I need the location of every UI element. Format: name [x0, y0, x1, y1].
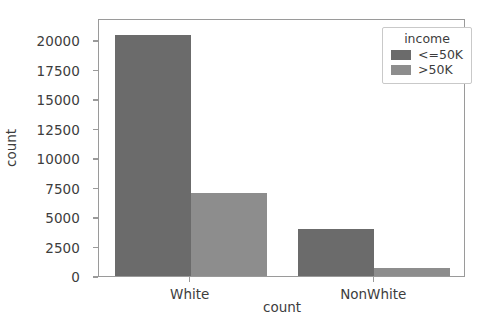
- y-tick-label: 20000: [37, 33, 80, 49]
- legend-title: income: [391, 32, 463, 46]
- y-tick-label: 12500: [37, 122, 80, 138]
- y-tick-label: 17500: [37, 63, 80, 79]
- y-tick-label: 10000: [37, 151, 80, 167]
- legend-item[interactable]: >50K: [391, 63, 463, 77]
- legend-entries: <=50K>50K: [391, 48, 463, 78]
- y-axis-label: count: [3, 129, 19, 167]
- y-tick-label: 5000: [45, 210, 80, 226]
- bar-white-gt50k: [191, 193, 267, 276]
- x-axis-label: count: [263, 299, 301, 315]
- y-tick-label: 0: [71, 269, 80, 285]
- legend[interactable]: income <=50K>50K: [382, 27, 472, 84]
- x-tick-mark: [189, 277, 190, 282]
- bar-nonwhite-lte50k: [298, 229, 374, 276]
- x-tick-label: NonWhite: [340, 286, 406, 302]
- bar-chart-figure: 02500500075001000012500150001750020000 c…: [0, 0, 487, 329]
- legend-swatch-icon: [391, 65, 411, 75]
- legend-item-label: >50K: [418, 63, 453, 77]
- legend-item[interactable]: <=50K: [391, 48, 463, 62]
- bar-white-lte50k: [115, 35, 191, 276]
- bar-nonwhite-gt50k: [374, 268, 450, 276]
- x-tick-label: White: [170, 286, 209, 302]
- y-tick-label: 2500: [45, 240, 80, 256]
- y-tick-label: 7500: [45, 181, 80, 197]
- x-tick-mark: [373, 277, 374, 282]
- legend-item-label: <=50K: [418, 48, 463, 62]
- legend-swatch-icon: [391, 50, 411, 60]
- y-tick-label: 15000: [37, 92, 80, 108]
